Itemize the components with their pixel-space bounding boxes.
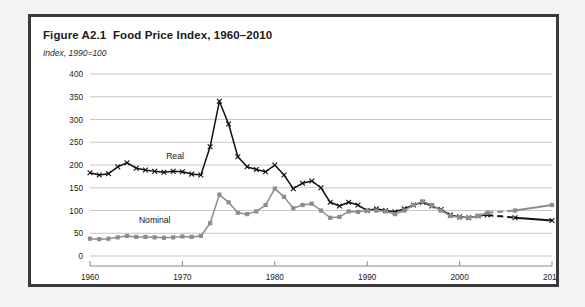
marker-nominal-1974	[217, 192, 221, 196]
marker-nominal-1990	[365, 208, 369, 212]
marker-nominal-1989	[356, 210, 360, 214]
x-axis-tick-labels: 196019701980199020002010	[81, 273, 556, 282]
series-inline-labels: RealNominal	[139, 151, 184, 225]
x-tick-1980: 1980	[266, 273, 285, 282]
marker-nominal-1984	[310, 202, 314, 206]
marker-nominal-1966	[143, 235, 147, 239]
marker-nominal-1969	[171, 235, 175, 239]
forecast-segment-nominal-2	[515, 205, 552, 210]
marker-nominal-1975	[227, 200, 231, 204]
marker-nominal-1992	[384, 209, 388, 213]
marker-nominal-1987	[337, 215, 341, 219]
x-tick-1970: 1970	[173, 273, 192, 282]
marker-nominal-1967	[153, 235, 157, 239]
marker-nominal-1981	[282, 195, 286, 199]
series-real	[88, 99, 555, 223]
series-label-real: Real	[166, 151, 184, 161]
marker-nominal-2002	[476, 214, 480, 218]
y-tick-300: 300	[69, 116, 83, 125]
y-tick-50: 50	[74, 229, 84, 238]
forecast-marker-nominal-2006	[513, 208, 517, 212]
marker-nominal-1960	[88, 237, 92, 241]
marker-nominal-1976	[236, 211, 240, 215]
y-tick-400: 400	[69, 70, 83, 79]
marker-nominal-1985	[319, 208, 323, 212]
marker-nominal-1994	[402, 208, 406, 212]
marker-nominal-1978	[254, 209, 258, 213]
gridlines	[90, 74, 552, 256]
marker-nominal-1986	[328, 216, 332, 220]
marker-nominal-1993	[393, 212, 397, 216]
marker-nominal-1962	[106, 237, 110, 241]
chart-plot-area: 050100150200250300350400 196019701980199…	[31, 17, 556, 284]
marker-nominal-1971	[190, 235, 194, 239]
marker-nominal-1970	[180, 234, 184, 238]
marker-real-1981	[282, 173, 287, 178]
marker-nominal-2001	[467, 216, 471, 220]
marker-real-1982	[291, 186, 296, 191]
series-line-nominal	[90, 189, 487, 240]
marker-nominal-1997	[430, 203, 434, 207]
marker-nominal-1995	[411, 203, 415, 207]
x-tick-1960: 1960	[81, 273, 100, 282]
marker-nominal-1965	[134, 235, 138, 239]
marker-nominal-2000	[458, 215, 462, 219]
marker-nominal-1961	[97, 237, 101, 241]
marker-nominal-1999	[448, 214, 452, 218]
figure-panel: Figure A2.1 Food Price Index, 1960–2010 …	[28, 14, 559, 287]
forecast-marker-nominal-2010	[550, 203, 554, 207]
marker-nominal-1998	[439, 208, 443, 212]
food-price-index-line-chart: 050100150200250300350400 196019701980199…	[31, 17, 556, 284]
forecast-segment-real-0	[487, 215, 515, 218]
y-tick-0: 0	[78, 252, 83, 261]
marker-nominal-1979	[263, 203, 267, 207]
x-tick-1990: 1990	[358, 273, 377, 282]
marker-nominal-1977	[245, 212, 249, 216]
x-axis	[90, 261, 552, 266]
series-line-real	[90, 101, 487, 217]
marker-nominal-1980	[273, 187, 277, 191]
y-tick-150: 150	[69, 184, 83, 193]
y-tick-200: 200	[69, 161, 83, 170]
marker-nominal-1968	[162, 236, 166, 240]
series-label-nominal: Nominal	[139, 215, 171, 225]
x-tick-2000: 2000	[450, 273, 469, 282]
y-tick-350: 350	[69, 93, 83, 102]
marker-nominal-1964	[125, 234, 129, 238]
marker-nominal-1972	[199, 234, 203, 238]
marker-nominal-1963	[116, 235, 120, 239]
marker-nominal-1982	[291, 206, 295, 210]
y-tick-250: 250	[69, 138, 83, 147]
marker-nominal-1988	[347, 209, 351, 213]
marker-nominal-1973	[208, 221, 212, 225]
forecast-segment-real-2	[515, 218, 552, 221]
marker-nominal-1983	[300, 203, 304, 207]
y-axis-tick-labels: 050100150200250300350400	[69, 70, 83, 261]
x-tick-2010: 2010	[543, 273, 556, 282]
marker-nominal-1996	[421, 199, 425, 203]
y-tick-100: 100	[69, 207, 83, 216]
marker-nominal-1991	[374, 208, 378, 212]
